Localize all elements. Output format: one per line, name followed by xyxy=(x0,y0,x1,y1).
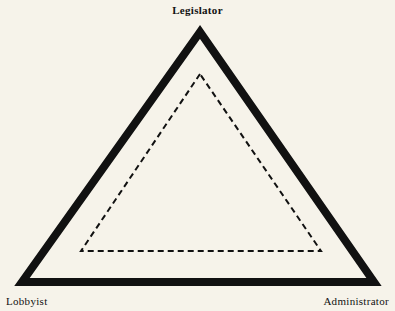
legislator-label: Legislator xyxy=(0,4,395,16)
inner-dashed-triangle xyxy=(81,74,321,251)
triangle-diagram xyxy=(0,0,395,311)
diagram-canvas: Legislator Lobbyist Administrator xyxy=(0,0,395,311)
lobbyist-label: Lobbyist xyxy=(6,295,48,307)
outer-solid-triangle xyxy=(22,32,374,282)
administrator-label: Administrator xyxy=(323,295,389,307)
